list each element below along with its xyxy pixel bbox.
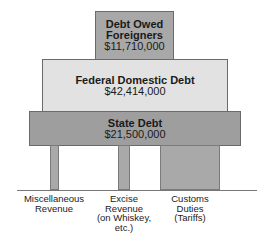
debt-owed-foreigners-block: Debt Owed Foreigners $11,710,000 [95, 11, 174, 60]
label-line: Revenue [18, 204, 90, 214]
pillar-label-customs: Customs Duties (Tariffs) [160, 194, 220, 223]
block-amount: $11,710,000 [104, 41, 164, 52]
block-amount: $21,500,000 [104, 129, 165, 140]
label-line: etc.) [94, 223, 154, 233]
label-line: (Tariffs) [160, 213, 220, 223]
federal-domestic-debt-block: Federal Domestic Debt $42,414,000 [42, 59, 228, 112]
customs-duties-pillar [160, 145, 220, 190]
ground-line [17, 190, 257, 191]
excise-revenue-pillar [118, 145, 130, 190]
miscellaneous-revenue-pillar [50, 145, 59, 190]
block-title: State Debt [108, 118, 162, 129]
block-title: Federal Domestic Debt [75, 75, 194, 86]
pillar-label-miscellaneous: Miscellaneous Revenue [18, 194, 90, 213]
pillar-label-excise: Excise Revenue (on Whiskey, etc.) [94, 194, 154, 232]
block-amount: $42,414,000 [104, 86, 165, 97]
state-debt-block: State Debt $21,500,000 [29, 111, 241, 146]
